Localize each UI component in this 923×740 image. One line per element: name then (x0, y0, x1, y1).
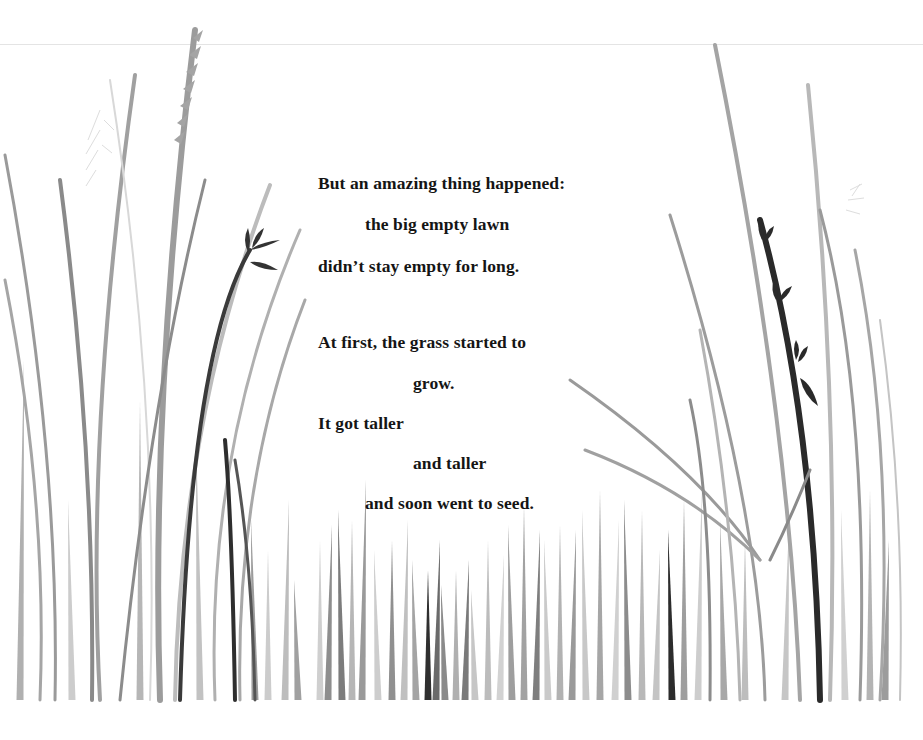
grass-blade (782, 525, 790, 700)
grass-blade (68, 500, 76, 700)
grass-blade (325, 525, 333, 700)
grass-blade (374, 550, 382, 700)
grass-blade (412, 560, 420, 700)
grass-blade (5, 155, 55, 700)
grass-blade (695, 490, 703, 700)
grass-blade (612, 520, 620, 700)
wheat-seedhead-icon (174, 30, 203, 144)
grass-blade (158, 30, 195, 700)
grass-blade (196, 440, 204, 700)
grass-blade (225, 440, 235, 700)
grass-blade (760, 220, 820, 700)
grass-blade (265, 550, 272, 700)
grass-blade (462, 560, 470, 700)
grass-blade (441, 585, 449, 700)
grass-blade (349, 520, 356, 700)
grass-blade (544, 540, 552, 700)
grass-blade (497, 555, 505, 700)
grass-blade (453, 570, 460, 700)
grass-blade (742, 540, 749, 700)
grass-blade (841, 510, 849, 700)
grass-blade (317, 540, 324, 700)
grass-blade (582, 510, 590, 700)
grass-blade (585, 450, 760, 560)
grass-blade (557, 525, 564, 700)
grass-blade (521, 505, 528, 700)
grass-blade (359, 480, 367, 700)
grass-blade (60, 180, 92, 700)
grass-blade (294, 580, 302, 700)
grass-blade (639, 510, 646, 700)
grass-blade (508, 525, 516, 700)
grass-blade (433, 540, 441, 700)
grass-blade (653, 550, 661, 700)
grass-blade (533, 530, 541, 700)
feathery-seedhead-icon (86, 110, 864, 214)
grass-blade (338, 510, 346, 700)
grass-blade (668, 530, 676, 700)
picture-book-page: But an amazing thing happened: the big e… (0, 0, 923, 740)
grass-blade (282, 500, 290, 700)
grass-blade (820, 210, 862, 700)
grass-blade (681, 500, 688, 700)
grass-blade (17, 360, 25, 700)
grass-blade (471, 590, 479, 700)
grass-blade (425, 570, 432, 700)
grass-blade (867, 490, 874, 700)
short-grass-blades (17, 360, 890, 700)
grass-blade (597, 490, 604, 700)
grass-blade (569, 530, 577, 700)
grass-blade (389, 540, 396, 700)
grass-illustration (0, 0, 923, 740)
grass-blade (401, 520, 409, 700)
grass-blade (485, 540, 492, 700)
grass-blade (720, 520, 728, 700)
grass-blade (624, 500, 632, 700)
